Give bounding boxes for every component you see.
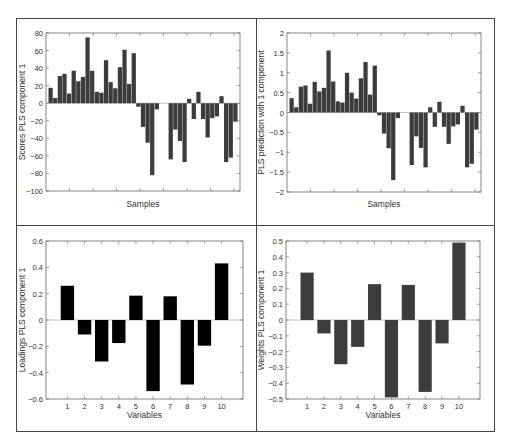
y-tick-label: 0.4 <box>273 253 283 262</box>
weights-chart: 0.50.40.30.20.10−0.1−0.2−0.3−0.4−0.51234… <box>0 0 508 447</box>
bar <box>368 284 381 320</box>
y-tick-label: −0.1 <box>268 332 283 341</box>
x-tick-label: 7 <box>406 402 410 411</box>
x-tick-label: 8 <box>423 402 427 411</box>
y-tick-label: 0.3 <box>273 269 283 278</box>
y-tick-label: 0.5 <box>273 237 283 246</box>
bar <box>402 285 415 320</box>
x-tick-label: 3 <box>339 402 343 411</box>
figure: 806040200−20−40−60−80−100SamplesScores P… <box>0 0 508 447</box>
y-tick-label: −0.3 <box>268 363 283 372</box>
bar <box>452 243 465 320</box>
x-tick-label: 1 <box>305 402 309 411</box>
bar <box>385 320 398 397</box>
bar <box>351 320 364 347</box>
y-tick-label: 0 <box>279 316 283 325</box>
x-tick-label: 9 <box>440 402 444 411</box>
y-tick-label: −0.4 <box>268 379 283 388</box>
y-tick-label: −0.5 <box>268 395 283 404</box>
y-tick-label: 0.2 <box>273 284 283 293</box>
bar <box>334 320 347 364</box>
bar <box>317 320 330 333</box>
x-tick-label: 10 <box>455 402 463 411</box>
bar <box>419 320 432 392</box>
bar <box>301 273 314 320</box>
y-axis-label: Weights PLS component 1 <box>256 269 266 370</box>
y-tick-label: 0.1 <box>273 300 283 309</box>
x-tick-label: 4 <box>356 402 360 411</box>
x-tick-label: 2 <box>322 402 326 411</box>
x-axis-label: Variables <box>366 410 401 420</box>
bar <box>435 320 448 343</box>
y-tick-label: −0.2 <box>268 348 283 357</box>
